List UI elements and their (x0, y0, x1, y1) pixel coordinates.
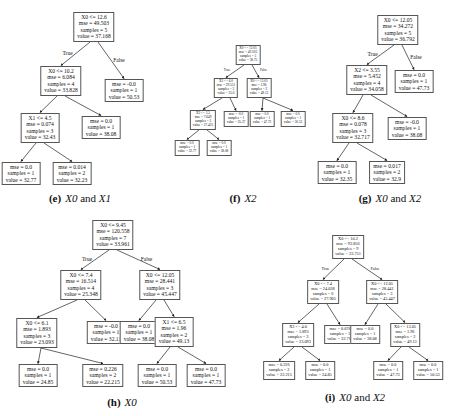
figure-caption: (i)X0 and X2 (325, 391, 385, 403)
caption-text: X0 and X2 (339, 391, 385, 403)
node-line: value = 38.08 (353, 337, 377, 342)
node-line: value = 24.85 (308, 373, 332, 378)
node-line: value = 27.905 (310, 297, 336, 302)
node-line: value = 23.093 (285, 340, 311, 345)
leaf-node: mse = 0.0samples = 1value = 38.08 (350, 325, 380, 344)
node-line: value = 47.73 (376, 373, 400, 378)
node-line: value = 33.751 (335, 252, 361, 257)
node-line: value = 32.717 (327, 337, 353, 342)
split-node: X2 <= 4.0mse = 1.893samples = 3value = 2… (282, 323, 314, 347)
split-node: X0 <= 10.2mse = 93.856samples = 9value =… (332, 235, 364, 259)
leaf-node: mse = 0.0samples = 1value = 24.85 (305, 361, 335, 380)
edge-label-false: False (370, 266, 379, 271)
node-line: value = 22.215 (266, 373, 292, 378)
split-node: X0 <= 13.05mse = 1.96samples = 2value = … (390, 323, 420, 347)
tree-figure-i: X0 <= 10.2mse = 93.856samples = 9value =… (0, 0, 466, 416)
edge-label-true: True (322, 266, 330, 271)
node-line: value = 45.447 (369, 297, 395, 302)
split-node: X0 <= 12.05mse = 28.441samples = 3value … (366, 280, 398, 304)
split-node: X0 <= 7.4mse = 24.038samples = 6value = … (307, 280, 339, 304)
node-line: value = 49.13 (393, 340, 417, 345)
leaf-node: mse = 0.0samples = 1value = 50.53 (413, 361, 443, 380)
node-line: value = 50.53 (416, 373, 440, 378)
leaf-node: mse = 0.226samples = 2value = 22.215 (263, 361, 295, 380)
caption-tag: (i) (325, 391, 335, 403)
leaf-node: mse = 0.0samples = 1value = 47.73 (373, 361, 403, 380)
